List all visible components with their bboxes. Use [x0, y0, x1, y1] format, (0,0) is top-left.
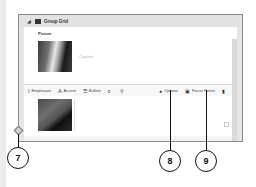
accent-icon: A — [58, 88, 61, 94]
callout-9-line — [206, 90, 207, 150]
link-icon: ⚲ — [120, 88, 124, 94]
delete-button[interactable]: ▮ — [222, 88, 227, 94]
list-icon: ≡ — [108, 88, 111, 94]
list-button[interactable]: ≡ — [108, 88, 113, 94]
focus-points-button[interactable]: ▣ Focus Points — [185, 88, 215, 94]
picture-thumbnail[interactable] — [38, 41, 72, 72]
panel-title: Group Grid — [44, 19, 68, 24]
picture-label: Picture — [38, 31, 52, 36]
callout-9-number: 9 — [203, 156, 208, 166]
bullets-button[interactable]: ☰ Bullets — [83, 88, 101, 94]
group-grid-panel: ◢ Group Grid Picture Caption I Emphasize… — [18, 14, 243, 142]
callout-7-line — [18, 134, 19, 147]
callout-7-number: 7 — [15, 153, 20, 163]
options-button[interactable]: ● Options — [159, 88, 178, 94]
link-button[interactable]: ⚲ — [120, 88, 126, 94]
left-margin-strip — [0, 0, 6, 187]
panel-header[interactable]: ◢ Group Grid — [19, 15, 242, 27]
callout-8-line — [170, 90, 171, 150]
select-checkbox[interactable] — [224, 122, 229, 127]
callout-7: 7 — [7, 147, 29, 169]
emphasize-label: Emphasize — [31, 88, 51, 93]
collapse-triangle-icon[interactable]: ◢ — [27, 18, 31, 24]
focus-points-label: Focus Points — [192, 88, 215, 93]
caption-input[interactable]: Caption — [79, 54, 93, 59]
screenshot-stage: ◢ Group Grid Picture Caption I Emphasize… — [0, 0, 256, 187]
callout-9: 9 — [195, 150, 217, 172]
callout-8: 8 — [159, 150, 181, 172]
emphasize-button[interactable]: I Emphasize — [28, 88, 51, 94]
thumbnail-divider — [74, 99, 75, 131]
emphasize-icon: I — [28, 88, 29, 94]
grid-item-picture: Picture Caption — [24, 27, 237, 85]
grid-icon — [35, 19, 41, 24]
scrollbar[interactable] — [232, 39, 237, 141]
second-thumbnail[interactable] — [38, 99, 72, 131]
focus-points-icon: ▣ — [185, 88, 190, 94]
accent-label: Accent — [64, 88, 76, 93]
options-gear-icon: ● — [159, 88, 162, 94]
callout-8-number: 8 — [167, 156, 172, 166]
accent-button[interactable]: A Accent — [58, 88, 76, 94]
bullets-label: Bullets — [89, 88, 101, 93]
trash-icon: ▮ — [222, 88, 225, 94]
bullets-icon: ☰ — [83, 88, 87, 94]
